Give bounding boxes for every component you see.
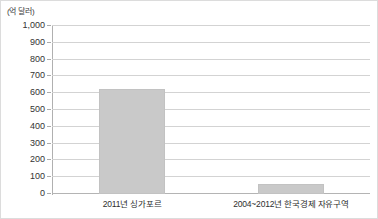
y-axis-tick-label: 200 <box>30 154 45 164</box>
y-axis-tick <box>47 126 51 127</box>
y-axis-tick-label: 1,000 <box>22 20 45 30</box>
y-axis-tick <box>47 109 51 110</box>
y-axis-tick <box>47 143 51 144</box>
y-axis-tick-label: 600 <box>30 87 45 97</box>
y-axis-tick-label: 500 <box>30 104 45 114</box>
y-axis-tick <box>47 159 51 160</box>
plot-area <box>52 25 370 194</box>
bar <box>258 184 324 194</box>
gridline <box>52 75 370 76</box>
gridline <box>52 59 370 60</box>
y-axis-tick <box>47 59 51 60</box>
y-axis-tick-label: 300 <box>30 138 45 148</box>
y-axis-tick-label: 700 <box>30 70 45 80</box>
x-axis-category-label: 2004~2012년 한국경제 자유구역 <box>233 197 349 209</box>
y-axis-tick <box>47 75 51 76</box>
y-axis-tick-label: 100 <box>30 171 45 181</box>
bar <box>99 89 165 194</box>
gridline <box>52 25 370 26</box>
y-axis-tick <box>47 42 51 43</box>
y-axis-tick-label: 800 <box>30 54 45 64</box>
gridline <box>52 42 370 43</box>
y-axis-tick <box>47 92 51 93</box>
y-axis-tick <box>47 176 51 177</box>
y-axis-tick-labels: 1,0009008007006005004003002001000 <box>1 25 45 194</box>
y-axis-tick-label: 400 <box>30 121 45 131</box>
x-axis-category-label: 2011년 싱가포르 <box>103 197 162 209</box>
y-axis-tick-label: 900 <box>30 37 45 47</box>
y-axis-tick <box>47 25 51 26</box>
y-axis-tick <box>47 193 51 194</box>
bar-chart: (억 달러) 1,0009008007006005004003002001000… <box>0 0 378 219</box>
y-axis-tick-label: 0 <box>40 188 45 198</box>
x-axis-category-labels: 2011년 싱가포르2004~2012년 한국경제 자유구역 <box>52 197 370 217</box>
y-axis-unit-label: (억 달러) <box>7 5 34 16</box>
